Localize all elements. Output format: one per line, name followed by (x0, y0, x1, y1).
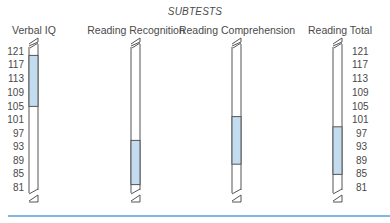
axis-break-icon (333, 195, 342, 202)
axis-break-icon (333, 38, 342, 46)
axis-break-icon (29, 195, 38, 202)
axis-break-icon (29, 38, 38, 46)
range-bars (0, 0, 390, 223)
bottom-rule (8, 215, 390, 217)
axis-break-icon (333, 189, 342, 194)
range-bar (131, 140, 140, 184)
axis-break-icon (29, 189, 38, 194)
axis-break-icon (131, 189, 140, 194)
range-bar (232, 117, 241, 165)
range-bar (29, 55, 38, 106)
axis-break-icon (131, 38, 140, 46)
axis-break-icon (232, 38, 241, 46)
axis-break-icon (131, 195, 140, 202)
axis-break-icon (232, 195, 241, 202)
axis-break-icon (232, 189, 241, 194)
range-bar (333, 127, 342, 175)
